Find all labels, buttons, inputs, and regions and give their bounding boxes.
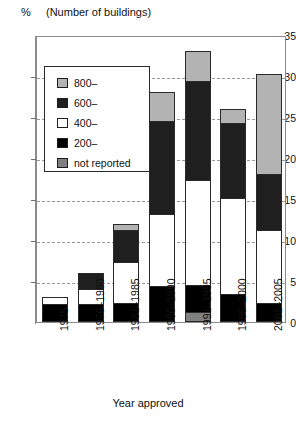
legend-label: 600– <box>74 98 97 109</box>
legend-item-s800[interactable]: 800– <box>57 73 149 93</box>
legend-item-s600[interactable]: 600– <box>57 93 149 113</box>
bar-segment <box>186 52 210 81</box>
bar-segment <box>257 175 281 231</box>
chart-subtitle: (Number of buildings) <box>46 7 151 18</box>
bar-segment <box>43 298 67 305</box>
legend-item-s400[interactable]: 400– <box>57 113 149 133</box>
y-axis-unit-label: % <box>21 7 31 18</box>
legend: 800–600–400–200–not reported <box>44 66 150 172</box>
x-tick-label: 1975 <box>59 308 70 331</box>
bar-segment <box>221 110 245 124</box>
legend-label: 800– <box>74 78 97 89</box>
x-tick-label: 1996–2000 <box>237 278 248 331</box>
legend-swatch-icon <box>57 98 68 108</box>
chart-root: % (Number of buildings) 05101520253035 1… <box>0 0 296 424</box>
legend-label: 200– <box>74 138 97 149</box>
x-tick-label: 2001–2005 <box>273 278 284 331</box>
legend-item-s200[interactable]: 200– <box>57 133 149 153</box>
x-tick-label: 1991–1995 <box>202 278 213 331</box>
x-tick-label: 1986–1990 <box>166 278 177 331</box>
legend-label: 400– <box>74 118 97 129</box>
bar-segment <box>221 124 245 200</box>
bar-segment <box>257 75 281 175</box>
legend-swatch-icon <box>57 118 68 128</box>
legend-swatch-icon <box>57 78 68 88</box>
x-axis-title: Year approved <box>0 398 296 409</box>
bar-segment <box>186 181 210 286</box>
x-tick-label: 1981–1985 <box>130 278 141 331</box>
legend-swatch-icon <box>57 138 68 148</box>
bar-segment <box>150 215 174 287</box>
x-tick-label: 1976–1980 <box>95 278 106 331</box>
legend-label: not reported <box>74 158 131 169</box>
legend-swatch-icon <box>57 158 68 168</box>
bar-segment <box>114 231 138 263</box>
bar-segment <box>150 122 174 215</box>
bar-segment <box>186 82 210 181</box>
legend-item-not_reported[interactable]: not reported <box>57 153 149 173</box>
bar-segment <box>150 93 174 121</box>
